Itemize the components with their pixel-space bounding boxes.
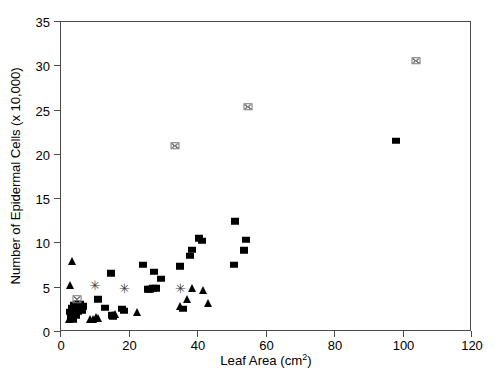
data-point-filled-triangle [183,295,191,303]
y-tick-label-35: 35 [36,16,50,29]
x-tick-0: 0 [60,331,61,337]
data-point-filled-square [70,302,78,309]
data-point-filled-triangle [66,281,74,289]
data-point-filled-triangle [68,257,76,265]
x-tick-label-100: 100 [393,339,415,352]
data-point-filled-square [144,286,152,293]
data-point-filled-square [72,313,80,320]
data-point-filled-square [77,305,85,312]
data-point-asterisk: ✳ [175,282,186,293]
data-point-filled-square [75,306,83,313]
x-axis-title-text: Leaf Area (cm [220,353,302,368]
data-point-filled-square [107,270,115,277]
y-tick-10: 10 [54,242,60,243]
y-tick-30: 30 [54,65,60,66]
data-point-filled-triangle [86,315,94,323]
y-tick-label-5: 5 [43,281,50,294]
data-point-filled-square [392,137,400,144]
data-point-filled-square [179,306,187,313]
x-axis-title-tail: ) [307,353,311,368]
data-point-filled-square [108,312,116,319]
data-point-crossed-open-square [244,103,253,111]
data-point-filled-triangle [94,314,102,322]
data-point-filled-square [176,263,184,270]
data-point-filled-square [152,285,160,292]
data-point-filled-square [70,310,78,317]
x-tick-label-120: 120 [461,339,483,352]
x-tick-label-0: 0 [57,339,64,352]
data-point-filled-square [76,301,84,308]
data-point-filled-square [118,306,126,313]
data-point-filled-triangle [111,310,119,318]
data-point-filled-square [230,261,238,268]
data-point-filled-triangle [199,286,207,294]
data-point-filled-triangle [109,311,117,319]
data-point-filled-square [69,316,77,323]
y-tick-35: 35 [54,21,60,22]
data-point-filled-square [72,305,80,312]
y-tick-label-10: 10 [36,237,50,250]
x-tick-120: 120 [471,331,472,337]
x-tick-40: 40 [197,331,198,337]
data-point-filled-square [79,303,87,310]
y-tick-25: 25 [54,110,60,111]
y-tick-label-0: 0 [43,326,50,339]
data-point-filled-triangle [204,299,212,307]
plot-area: 05101520253035 020406080100120 ✳✳✳ [60,21,471,331]
data-point-filled-square [240,247,248,254]
data-point-crossed-open-square [412,57,421,65]
x-axis-title: Leaf Area (cm2) [60,352,472,368]
data-point-filled-square [186,252,194,259]
data-point-filled-square [120,307,128,314]
y-tick-label-25: 25 [36,104,50,117]
data-point-filled-square [67,314,75,321]
y-tick-label-15: 15 [36,193,50,206]
y-tick-15: 15 [54,198,60,199]
x-tick-100: 100 [403,331,404,337]
data-point-filled-square [66,308,74,315]
data-point-asterisk: ✳ [89,279,100,290]
x-tick-label-40: 40 [191,339,205,352]
data-point-filled-triangle [65,315,73,323]
data-point-filled-triangle [176,302,184,310]
y-tick-20: 20 [54,154,60,155]
data-point-filled-square [146,286,154,293]
x-tick-80: 80 [334,331,335,337]
y-axis-title: Number of Epidermal Cells (x 10,000) [4,21,26,331]
x-tick-label-20: 20 [122,339,136,352]
y-tick-5: 5 [54,287,60,288]
y-tick-label-30: 30 [36,60,50,73]
data-point-filled-triangle [133,308,141,316]
data-point-filled-square [101,305,109,312]
x-tick-label-80: 80 [328,339,342,352]
x-tick-20: 20 [129,331,130,337]
data-point-filled-triangle [89,315,97,323]
x-tick-60: 60 [266,331,267,337]
scatter-plot-figure: Number of Epidermal Cells (x 10,000) 051… [0,0,503,379]
data-point-filled-square [139,261,147,268]
data-point-filled-square [150,268,158,275]
data-point-filled-square [71,307,79,314]
data-point-filled-square [231,218,239,225]
data-point-filled-square [157,275,165,282]
data-point-crossed-open-square [170,142,179,150]
data-point-filled-triangle [188,284,196,292]
data-point-filled-square [242,237,250,244]
x-tick-label-60: 60 [259,339,273,352]
data-point-filled-square [149,285,157,292]
data-point-filled-square [109,314,117,321]
data-point-filled-square [195,235,203,242]
data-point-crossed-open-square [73,295,82,303]
data-point-filled-square [188,246,196,253]
data-point-filled-square [74,303,82,310]
data-point-filled-square [94,296,102,303]
data-point-filled-square [73,300,81,307]
y-tick-label-20: 20 [36,148,50,161]
data-point-filled-square [198,237,206,244]
data-point-filled-square [74,308,82,315]
data-point-filled-square [68,305,76,312]
data-point-asterisk: ✳ [119,283,130,294]
data-point-filled-triangle [92,313,100,321]
data-point-filled-square [78,307,86,314]
